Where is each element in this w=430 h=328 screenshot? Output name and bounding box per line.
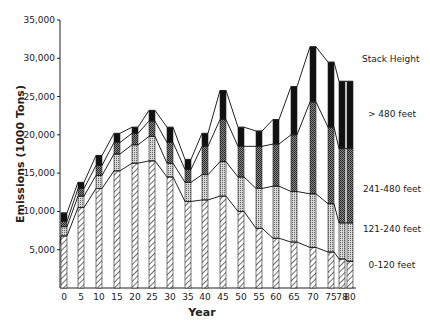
bar-segment [78,196,84,207]
legend-item-label: 121-240 feet [363,224,422,234]
bar-segment [114,171,120,288]
x-tick-label: 70 [307,292,319,302]
bar-segment [291,87,297,135]
bar-segment [185,159,191,169]
x-tick-label: 80 [344,292,356,302]
legend-title: Stack Height [362,54,420,64]
bar-segment [149,121,155,136]
x-tick-label: 15 [111,292,122,302]
legend-item-label: 0-120 feet [369,260,416,270]
y-tick-label: 25,000 [24,92,56,102]
bar-segment [256,131,262,146]
bar-segment [347,81,353,148]
bar-segment [132,163,138,288]
bar-segment [339,259,345,288]
legend-item-label: > 480 feet [368,109,417,119]
x-tick-label: 30 [164,292,176,302]
bar-segment [256,146,262,188]
bar-segment [61,213,67,221]
bar-segment [149,136,155,161]
bar-segment [78,188,84,196]
x-tick-label: 50 [235,292,247,302]
bar-stack-35 [185,159,191,288]
bar-stack-40 [202,133,208,288]
bar-segment [273,238,279,288]
bar-segment [167,163,173,177]
bar-segment [96,175,102,188]
bar-stack-55 [256,131,262,288]
bar-segment [291,242,297,288]
x-tick-label: 0 [61,292,67,302]
bar-stack-70 [310,47,316,288]
bar-segment [347,149,353,223]
bar-segment [96,156,102,166]
bar-segment [78,208,84,288]
bar-segment [149,161,155,288]
bar-segment [328,252,334,288]
x-tick-label: 35 [182,292,193,302]
bar-segment [185,182,191,201]
bar-segment [167,127,173,142]
bar-segment [149,110,155,121]
x-axis-title: Year [187,306,216,319]
bar-segment [202,175,208,200]
bar-segment [202,133,208,146]
bar-segment [202,146,208,174]
bar-segment [328,127,334,204]
x-tick-label: 60 [270,292,282,302]
x-tick-label: 20 [129,292,141,302]
bar-stack-20 [132,127,138,288]
bar-segment [347,223,353,261]
x-tick-label: 65 [288,292,299,302]
bar-segment [220,90,226,119]
bar-segment [291,192,297,243]
y-axis: 5,00010,00015,00020,00025,00030,00035,00… [24,15,61,288]
bar-segment [96,165,102,175]
bar-segment [238,127,244,146]
bar-segment [339,149,345,223]
bar-stack-15 [114,133,120,288]
bar-segment [220,120,226,162]
bar-stack-30 [167,127,173,288]
y-axis-title: Emissions (1000 Tons) [14,85,27,223]
stacked-emissions-chart: 5,00010,00015,00020,00025,00030,00035,00… [0,0,430,328]
x-tick-label: 10 [93,292,105,302]
bar-segment [238,211,244,288]
bar-segment [339,81,345,148]
bar-segment [78,182,84,188]
legend-item-label: 241-480 feet [363,184,422,194]
bar-segment [167,177,173,288]
bar-stack-60 [273,120,279,288]
y-tick-label: 15,000 [24,168,56,178]
bar-segment [256,228,262,288]
bar-stack-0 [61,213,67,288]
x-tick-label: 40 [199,292,211,302]
bar-segment [328,62,334,127]
bar-stack-45 [220,90,226,288]
bar-segment [185,201,191,288]
bar-segment [167,143,173,164]
bar-segment [310,47,316,102]
y-tick-label: 5,000 [29,245,55,255]
bar-segment [310,247,316,288]
legend: Stack Height 0-120 feet121-240 feet241-4… [362,54,422,270]
bar-stack-5 [78,182,84,288]
bar-segment [132,127,138,133]
bar-segment [132,145,138,163]
bar-segment [61,227,67,236]
bar-segment [256,188,262,228]
bar-segment [96,188,102,288]
bar-segment [220,162,226,196]
bar-segment [328,204,334,252]
bar-segment [185,169,191,182]
bar-stack-50 [238,127,244,288]
x-tick-label: 25 [146,292,157,302]
bar-segment [220,196,226,288]
bar-segment [114,133,120,142]
bar-segment [114,154,120,171]
bar-segment [132,133,138,144]
x-tick-label: 75 [325,292,336,302]
bar-segment [347,261,353,288]
bar-segment [273,186,279,238]
bar-segment [238,177,244,211]
